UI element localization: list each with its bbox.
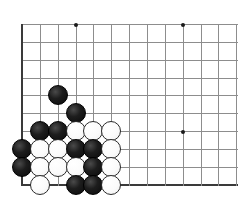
white-stone[interactable]	[101, 175, 121, 195]
white-stone[interactable]	[48, 139, 68, 159]
white-stone[interactable]	[101, 139, 121, 159]
star-point-icon	[74, 23, 78, 27]
grid-line-vertical	[218, 24, 219, 186]
grid-line-vertical	[201, 24, 202, 186]
grid-line-vertical	[129, 24, 130, 186]
black-stone[interactable]	[48, 85, 68, 105]
white-stone[interactable]	[30, 175, 50, 195]
grid-line-vertical	[236, 24, 237, 186]
go-board-figure	[0, 0, 238, 207]
white-stone[interactable]	[101, 157, 121, 177]
star-point-icon	[181, 23, 185, 27]
white-stone[interactable]	[30, 157, 50, 177]
grid-line-vertical	[183, 24, 184, 186]
goban[interactable]	[0, 0, 238, 207]
white-stone[interactable]	[48, 157, 68, 177]
white-stone[interactable]	[30, 139, 50, 159]
grid-line-vertical	[165, 24, 166, 186]
grid-line-vertical	[147, 24, 148, 186]
star-point-icon	[181, 130, 185, 134]
